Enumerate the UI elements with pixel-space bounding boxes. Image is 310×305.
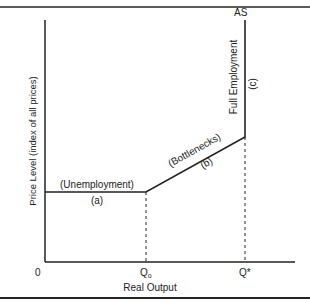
segment-a-label: (a) <box>91 195 103 206</box>
segment-c-label: (c) <box>247 78 258 90</box>
aggregate-supply-chart: 0 Qo Q* Real Output Price Level (index o… <box>0 0 310 305</box>
qstar-label: Q* <box>239 267 251 278</box>
segment-b-label: (b) <box>198 155 214 171</box>
as-label: AS <box>234 7 248 18</box>
origin-label: 0 <box>35 267 41 278</box>
y-axis-title: Price Level (index of all prices) <box>27 76 38 205</box>
as-curve <box>45 20 245 192</box>
full-employment-label: Full Employment <box>228 40 239 115</box>
q0-label: Qo <box>140 267 152 279</box>
unemployment-label: (Unemployment) <box>60 179 134 190</box>
x-axis-title: Real Output <box>123 282 177 293</box>
bottlenecks-label: (Bottlenecks) <box>166 131 222 169</box>
